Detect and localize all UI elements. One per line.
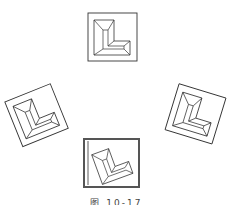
tile-bottom-selected xyxy=(84,139,139,187)
tile-right xyxy=(165,84,226,144)
figure-caption: 图 10-17 xyxy=(0,196,233,205)
tile-top xyxy=(88,13,137,61)
tile-diagram xyxy=(0,0,233,205)
tile-left xyxy=(5,84,68,147)
